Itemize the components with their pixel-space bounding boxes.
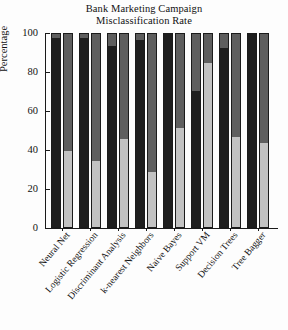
bar-segment-lower xyxy=(204,63,212,227)
bar-group xyxy=(247,33,269,228)
bar-segment-lower xyxy=(120,139,128,227)
bar-segment-lower xyxy=(52,38,60,227)
bar-secondary[interactable] xyxy=(231,33,241,228)
y-tick-label-20: 20 xyxy=(28,184,39,194)
y-tick-0 xyxy=(46,228,50,229)
bar-segment-upper xyxy=(176,34,184,130)
bar-primary[interactable] xyxy=(191,33,201,228)
bar-group xyxy=(163,33,185,228)
bar-primary[interactable] xyxy=(247,33,257,228)
y-tick-label-0: 0 xyxy=(33,223,38,233)
y-axis-line xyxy=(45,33,46,229)
y-tick-80 xyxy=(46,72,50,73)
y-axis-title: Percentage xyxy=(0,26,9,72)
bar-primary[interactable] xyxy=(163,33,173,228)
bar-segment-upper xyxy=(232,34,240,139)
bar-primary[interactable] xyxy=(135,33,145,228)
bar-segment-lower xyxy=(164,33,172,227)
y-tick-label-100: 100 xyxy=(22,28,38,38)
x-axis-line xyxy=(45,228,278,229)
bar-primary[interactable] xyxy=(107,33,117,228)
y-tick-label-80: 80 xyxy=(28,67,39,77)
bar-segment-upper xyxy=(204,34,212,65)
bar-segment-upper xyxy=(120,34,128,141)
chart-title-line-2: Misclassification Rate xyxy=(0,15,288,27)
bar-segment-lower xyxy=(64,151,72,227)
bar-segment-upper xyxy=(92,34,100,163)
bar-secondary[interactable] xyxy=(203,33,213,228)
bar-secondary[interactable] xyxy=(119,33,129,228)
bar-secondary[interactable] xyxy=(91,33,101,228)
chart-figure: Bank Marketing Campaign Misclassificatio… xyxy=(0,0,288,330)
bar-segment-lower xyxy=(136,40,144,227)
bar-group xyxy=(79,33,101,228)
bar-segment-lower xyxy=(108,46,116,227)
y-tick-label-40: 40 xyxy=(28,145,39,155)
bar-segment-upper xyxy=(64,34,72,153)
bar-group xyxy=(135,33,157,228)
bar-secondary[interactable] xyxy=(147,33,157,228)
bar-segment-lower xyxy=(80,38,88,227)
bar-segment-lower xyxy=(176,128,184,227)
x-axis-tick-labels: Neural NetLogistic RegressionDiscriminan… xyxy=(45,230,288,330)
bar-secondary[interactable] xyxy=(63,33,73,228)
bar-group xyxy=(219,33,241,228)
chart-title: Bank Marketing Campaign Misclassificatio… xyxy=(0,3,288,27)
y-tick-60 xyxy=(46,111,50,112)
y-tick-20 xyxy=(46,189,50,190)
bar-segment-lower xyxy=(192,91,200,228)
bar-segment-lower xyxy=(260,143,268,227)
y-tick-100 xyxy=(46,33,50,34)
bar-segment-upper xyxy=(192,34,200,93)
bar-segment-upper xyxy=(148,34,156,174)
plot-area: 020406080100 xyxy=(45,33,277,228)
bar-group xyxy=(51,33,73,228)
y-tick-label-60: 60 xyxy=(28,106,39,116)
bar-segment-lower xyxy=(220,48,228,227)
chart-title-line-1: Bank Marketing Campaign xyxy=(0,3,288,15)
bar-segment-lower xyxy=(148,172,156,227)
bar-segment-lower xyxy=(92,161,100,227)
bar-segment-lower xyxy=(232,137,240,227)
bar-segment-upper xyxy=(260,34,268,145)
bar-primary[interactable] xyxy=(51,33,61,228)
bar-secondary[interactable] xyxy=(259,33,269,228)
bar-segment-lower xyxy=(248,33,256,227)
bar-group xyxy=(107,33,129,228)
y-tick-40 xyxy=(46,150,50,151)
bar-secondary[interactable] xyxy=(175,33,185,228)
bar-group xyxy=(191,33,213,228)
bar-primary[interactable] xyxy=(219,33,229,228)
bar-primary[interactable] xyxy=(79,33,89,228)
